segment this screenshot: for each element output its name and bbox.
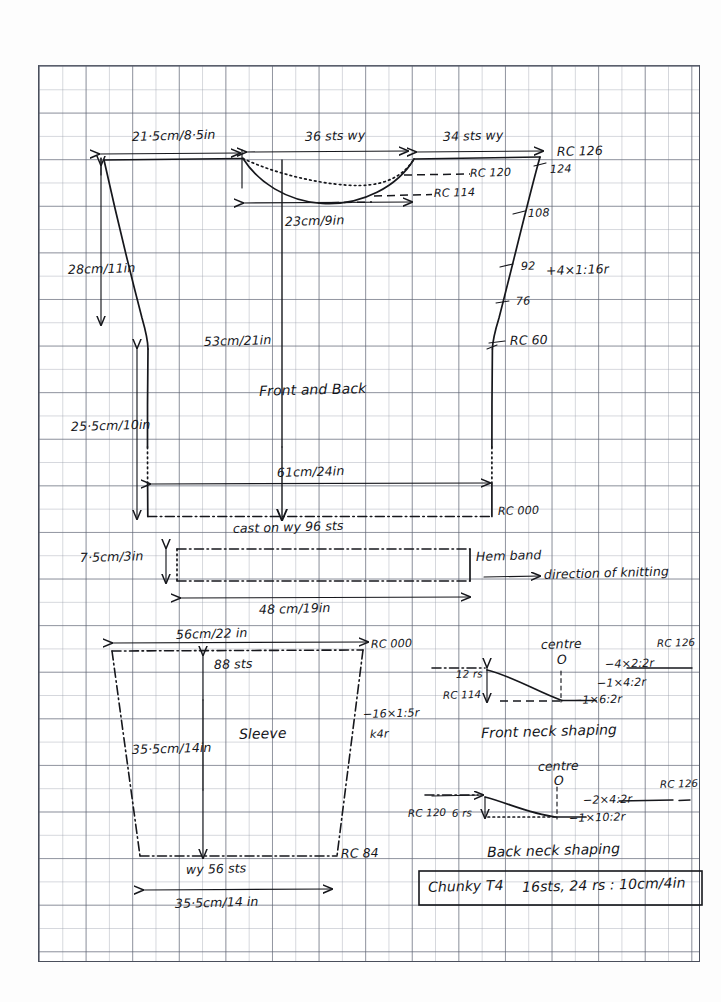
label-sleeve-length: 35·5cm/14in xyxy=(132,742,212,757)
label-cast-on: cast on wy 96 sts xyxy=(233,520,344,536)
label-back-dec-1: −2×4:2r xyxy=(583,794,632,807)
label-back-dec-2: −1×10:2r xyxy=(569,811,626,824)
label-back-centre-mark: O xyxy=(554,775,564,788)
label-total-length: 53cm/21in xyxy=(204,334,272,348)
label-rc-60: RC 60 xyxy=(510,334,548,348)
label-front-centre: centre xyxy=(541,638,582,652)
label-sleeve-top-width: 56cm/22 in xyxy=(176,627,248,641)
label-shoulder-sts: 34 sts wy xyxy=(443,129,504,143)
label-front-dec-2: −1×4:2r xyxy=(597,677,646,690)
label-back-centre: centre xyxy=(538,760,579,774)
label-sleeve-shaping: −16×1:5r xyxy=(363,707,420,720)
label-rc-120: RC 120 xyxy=(470,167,511,179)
label-front-dec-3: −1×6:2r xyxy=(573,694,622,707)
label-front-and-back: Front and Back xyxy=(259,381,367,398)
label-sts-76: 76 xyxy=(516,296,531,308)
label-rc-114: RC 114 xyxy=(434,187,475,199)
label-side-length: 25·5cm/10in xyxy=(71,419,151,434)
label-front-rc-114: RC 114 xyxy=(443,689,481,700)
label-rc-126-body: RC 126 xyxy=(557,145,603,159)
label-front-neck-shaping: Front neck shaping xyxy=(481,722,617,740)
label-hem-band: Hem band xyxy=(476,549,542,563)
label-front-centre-mark: O xyxy=(557,654,567,667)
label-back-neck-shaping: Back neck shaping xyxy=(487,841,621,859)
label-hem-width: 61cm/24in xyxy=(277,465,345,479)
label-rc-000-body: RC 000 xyxy=(498,505,539,517)
label-sleeve: Sleeve xyxy=(239,726,287,741)
label-front-rc-126: RC 126 xyxy=(657,637,695,648)
paper-sheet: .s { fill:none; stroke:#16171c; stroke-w… xyxy=(0,0,721,1002)
label-sts-124: 124 xyxy=(550,163,572,175)
label-sts-92: 92 xyxy=(521,261,536,273)
label-neck-width: 23cm/9in xyxy=(285,214,345,228)
label-back-rc-126: RC 126 xyxy=(660,778,698,789)
label-yarn-tension: Chunky T4 xyxy=(428,878,504,894)
label-front-neck-sts: 36 sts wy xyxy=(305,129,366,143)
label-front-dec-1: −4×2:2r xyxy=(605,658,654,671)
label-rc-84: RC 84 xyxy=(341,847,379,861)
label-hem-height: 7·5cm/3in xyxy=(80,550,144,564)
label-sts-108: 108 xyxy=(528,207,550,219)
label-cuff-sts: wy 56 sts xyxy=(186,862,247,876)
label-cuff-width: 35·5cm/14 in xyxy=(175,896,259,911)
label-armhole-depth: 28cm/11in xyxy=(68,262,136,276)
label-hem-width-dim: 48 cm/19in xyxy=(259,602,331,616)
label-rc-000-sleeve: RC 000 xyxy=(371,638,412,650)
label-back-rc-120: RC 120 xyxy=(408,807,446,818)
label-sleeve-k4r: k4r xyxy=(370,728,389,740)
label-shoulder-width: 21·5cm/8·5in xyxy=(132,129,216,144)
label-front-rows: 12 rs xyxy=(456,668,483,679)
label-sleeve-top-sts: 88 sts xyxy=(214,658,253,672)
label-increase-note: +4×1:16r xyxy=(546,263,609,277)
label-back-rows: 6 rs xyxy=(452,807,472,818)
